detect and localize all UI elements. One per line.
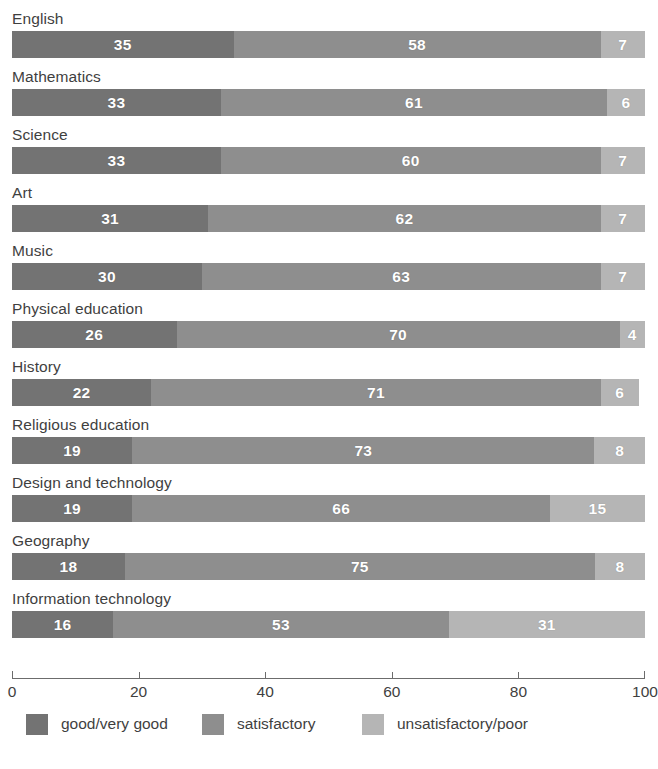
legend-item[interactable]: satisfactory xyxy=(202,712,315,736)
bar-segment-value: 16 xyxy=(54,617,72,633)
bar-segment: 7 xyxy=(601,31,645,58)
legend-swatch-icon xyxy=(26,714,48,735)
bar-segment-value: 22 xyxy=(73,385,91,401)
bar-row: Physical education26704 xyxy=(12,298,645,356)
bar-segment-value: 6 xyxy=(622,95,631,111)
bar-segment-value: 60 xyxy=(402,153,420,169)
bar-segment-value: 7 xyxy=(618,269,627,285)
bar-segment-value: 4 xyxy=(628,327,637,343)
bar-segment: 7 xyxy=(601,205,645,232)
bar-segment-value: 19 xyxy=(63,501,81,517)
x-axis-tick-label: 20 xyxy=(130,683,147,701)
x-axis-tick xyxy=(644,671,645,679)
bar-row-label: Mathematics xyxy=(12,66,101,88)
bar-segment-value: 19 xyxy=(63,443,81,459)
x-axis: 020406080100 xyxy=(12,670,645,710)
bar-segment: 4 xyxy=(620,321,645,348)
x-axis-line xyxy=(12,678,645,679)
bar-segment-value: 61 xyxy=(405,95,423,111)
bar-segment-value: 66 xyxy=(332,501,350,517)
bar-segment-value: 70 xyxy=(389,327,407,343)
bar-segment-value: 62 xyxy=(396,211,414,227)
x-axis-tick-label: 60 xyxy=(383,683,400,701)
bar-row-label: History xyxy=(12,356,61,378)
bar-segment: 61 xyxy=(221,89,607,116)
bar-segment: 33 xyxy=(12,147,221,174)
bar-segment-value: 31 xyxy=(538,617,556,633)
x-axis-tick xyxy=(139,672,140,679)
stacked-bar: 35587 xyxy=(12,31,645,58)
bar-row: Mathematics33616 xyxy=(12,66,645,124)
bar-segment-value: 7 xyxy=(618,153,627,169)
x-axis-tick xyxy=(265,672,266,679)
bar-row: Science33607 xyxy=(12,124,645,182)
x-axis-tick xyxy=(392,672,393,679)
bar-segment: 31 xyxy=(449,611,645,638)
bar-row: Geography18758 xyxy=(12,530,645,588)
bar-segment-value: 73 xyxy=(354,443,372,459)
bar-segment-value: 7 xyxy=(618,37,627,53)
bar-row: Religious education19738 xyxy=(12,414,645,472)
bar-segment: 60 xyxy=(221,147,601,174)
x-axis-tick-label: 80 xyxy=(510,683,527,701)
stacked-bar: 165331 xyxy=(12,611,645,638)
bar-segment: 8 xyxy=(595,553,645,580)
bar-segment: 63 xyxy=(202,263,601,290)
legend-swatch-icon xyxy=(362,714,384,735)
stacked-bar: 19738 xyxy=(12,437,645,464)
stacked-bar: 22716 xyxy=(12,379,645,406)
bar-row: Information technology165331 xyxy=(12,588,645,646)
x-axis-tick xyxy=(12,671,13,679)
bar-row-label: Religious education xyxy=(12,414,149,436)
bar-row-label: Science xyxy=(12,124,68,146)
bar-row: English35587 xyxy=(12,8,645,66)
x-axis-tick-label: 100 xyxy=(632,683,658,701)
legend-label: good/very good xyxy=(61,716,168,732)
stacked-bar: 31627 xyxy=(12,205,645,232)
bar-segment: 18 xyxy=(12,553,125,580)
bar-segment: 33 xyxy=(12,89,221,116)
stacked-bar: 30637 xyxy=(12,263,645,290)
bar-segment: 7 xyxy=(601,263,645,290)
bar-segment-value: 71 xyxy=(367,385,385,401)
legend-label: satisfactory xyxy=(237,716,315,732)
bar-segment: 7 xyxy=(601,147,645,174)
bar-segment: 22 xyxy=(12,379,151,406)
bar-segment: 66 xyxy=(132,495,550,522)
bar-segment-value: 8 xyxy=(615,559,624,575)
bar-segment: 30 xyxy=(12,263,202,290)
legend-swatch-icon xyxy=(202,714,224,735)
bar-segment: 58 xyxy=(234,31,601,58)
bar-row: History22716 xyxy=(12,356,645,414)
stacked-bar: 33616 xyxy=(12,89,645,116)
bar-row-label: Design and technology xyxy=(12,472,172,494)
legend-item[interactable]: unsatisfactory/poor xyxy=(362,712,528,736)
bar-segment: 31 xyxy=(12,205,208,232)
bar-segment: 8 xyxy=(594,437,645,464)
bar-row-label: English xyxy=(12,8,64,30)
legend-label: unsatisfactory/poor xyxy=(397,716,528,732)
bar-row: Art31627 xyxy=(12,182,645,240)
bar-segment-value: 8 xyxy=(615,443,624,459)
bar-segment: 19 xyxy=(12,495,132,522)
stacked-bar: 18758 xyxy=(12,553,645,580)
bar-segment: 26 xyxy=(12,321,177,348)
bar-segment: 75 xyxy=(125,553,595,580)
bar-row-label: Art xyxy=(12,182,32,204)
bar-segment-value: 33 xyxy=(108,153,126,169)
bar-segment-value: 26 xyxy=(85,327,103,343)
bar-segment: 71 xyxy=(151,379,600,406)
bar-row: Design and technology196615 xyxy=(12,472,645,530)
x-axis-tick-label: 40 xyxy=(257,683,274,701)
bar-row-label: Geography xyxy=(12,530,90,552)
bar-segment: 70 xyxy=(177,321,620,348)
bar-segment: 6 xyxy=(601,379,639,406)
bar-segment-value: 58 xyxy=(408,37,426,53)
stacked-bar: 196615 xyxy=(12,495,645,522)
legend-item[interactable]: good/very good xyxy=(26,712,168,736)
bar-segment: 62 xyxy=(208,205,600,232)
x-axis-tick-label: 0 xyxy=(8,683,17,701)
bar-segment-value: 30 xyxy=(98,269,116,285)
bar-segment: 35 xyxy=(12,31,234,58)
